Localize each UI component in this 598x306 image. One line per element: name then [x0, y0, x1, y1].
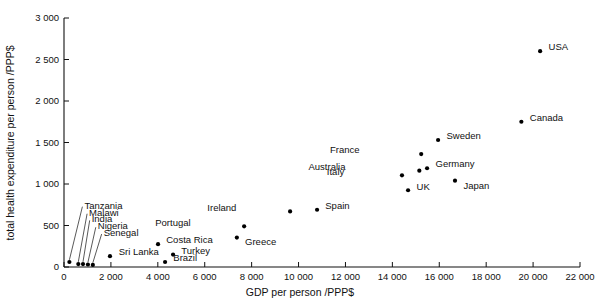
x-tick-label: 10 000	[284, 271, 313, 282]
data-point-label: Brazil	[173, 252, 197, 263]
data-point-label: Costa Rica	[166, 234, 213, 245]
x-tick-label: 6 000	[193, 271, 217, 282]
data-point	[242, 224, 246, 228]
data-point	[519, 120, 523, 124]
leader-line	[93, 234, 102, 263]
data-point-label: Senegal	[104, 227, 139, 238]
data-point	[436, 138, 440, 142]
data-point-label: France	[330, 144, 360, 155]
x-tick-label: 16 000	[425, 271, 454, 282]
data-point	[67, 260, 71, 264]
x-axis: 02 0004 0006 0008 00010 00012 00014 0001…	[61, 262, 594, 282]
data-point-label: USA	[549, 41, 569, 52]
data-point	[86, 262, 90, 266]
data-point	[538, 49, 542, 53]
chart-canvas: 05001 0001 5002 0002 5003 000 02 0004 00…	[0, 0, 598, 306]
data-point	[163, 260, 167, 264]
leader-line	[83, 220, 90, 262]
data-point-label: Portugal	[155, 217, 190, 228]
data-point	[425, 166, 429, 170]
data-point	[419, 152, 423, 156]
data-point-label: Sweden	[447, 130, 481, 141]
data-point-label: Sri Lanka	[119, 246, 160, 257]
y-tick-label: 500	[43, 220, 59, 231]
y-tick-label: 0	[54, 261, 59, 272]
data-point-label: Ireland	[207, 202, 236, 213]
x-tick-label: 22 000	[565, 271, 594, 282]
data-point-label: Australia	[308, 161, 346, 172]
x-tick-label: 8 000	[240, 271, 264, 282]
x-tick-label: 0	[61, 271, 66, 282]
data-point-label: Spain	[325, 200, 349, 211]
data-point	[76, 262, 80, 266]
scatter-chart: 05001 0001 5002 0002 5003 000 02 0004 00…	[0, 0, 598, 306]
data-point	[235, 235, 239, 239]
data-point	[417, 169, 421, 173]
x-tick-label: 20 000	[519, 271, 548, 282]
point-labels: TanzaniaMalawiIndiaNigeriaSenegalSri Lan…	[84, 41, 568, 263]
data-point-label: Japan	[463, 180, 489, 191]
data-point	[406, 188, 410, 192]
x-tick-label: 14 000	[378, 271, 407, 282]
data-point	[91, 263, 95, 267]
data-point	[453, 179, 457, 183]
data-point-label: Germany	[436, 158, 475, 169]
y-axis: 05001 0001 5002 0002 5003 000	[35, 12, 69, 272]
data-point-label: Greece	[245, 236, 276, 247]
data-point-label: UK	[417, 181, 431, 192]
x-axis-title: GDP per person /PPP$	[246, 286, 355, 298]
x-tick-label: 12 000	[331, 271, 360, 282]
y-tick-label: 1 500	[35, 137, 59, 148]
y-tick-label: 3 000	[35, 12, 59, 23]
data-point	[315, 208, 319, 212]
data-point	[108, 254, 112, 258]
y-tick-label: 2 000	[35, 95, 59, 106]
leader-line	[78, 214, 87, 262]
data-point	[400, 173, 404, 177]
x-tick-label: 2 000	[99, 271, 123, 282]
y-tick-label: 2 500	[35, 54, 59, 65]
x-tick-label: 4 000	[146, 271, 170, 282]
y-axis-title: total health expenditure per person /PPP…	[4, 45, 16, 240]
data-point-label: Canada	[530, 112, 564, 123]
y-tick-label: 1 000	[35, 178, 59, 189]
data-point	[288, 209, 292, 213]
data-point	[81, 262, 85, 266]
x-tick-label: 18 000	[472, 271, 501, 282]
